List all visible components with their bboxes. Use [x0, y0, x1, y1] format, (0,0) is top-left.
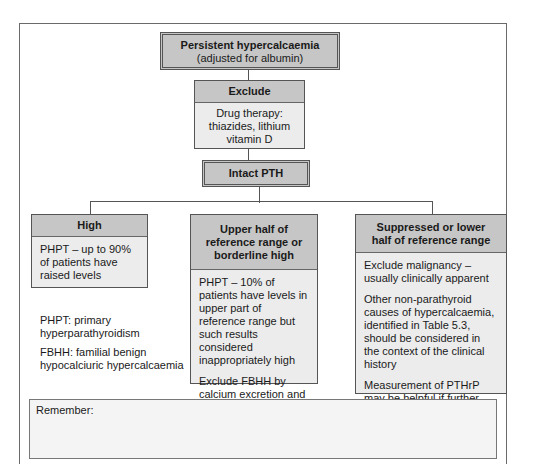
- start-subtitle: (adjusted for albumin): [163, 52, 337, 65]
- connector: [90, 201, 433, 202]
- remember-box: Remember:: [29, 399, 497, 459]
- branch-title: Upper half of reference range or borderl…: [191, 215, 317, 270]
- legend-item: PHPT: primary hyperparathyroidism: [40, 314, 185, 340]
- branch-text: PHPT – up to 90% of patients have raised…: [40, 243, 139, 282]
- connector: [90, 201, 91, 214]
- branch-title: High: [32, 215, 147, 237]
- branch-text: Other non-parathyroid causes of hypercal…: [364, 293, 498, 371]
- branch-suppressed: Suppressed or lower half of reference ra…: [355, 214, 507, 394]
- branch-text: Exclude malignancy – usually clinically …: [364, 259, 498, 285]
- branch-text: PHPT – 10% of patients have levels in up…: [199, 276, 309, 367]
- exclude-title: Exclude: [195, 81, 304, 103]
- connector: [248, 149, 249, 160]
- exclude-box: Exclude Drug therapy: thiazides, lithium…: [194, 80, 305, 149]
- pth-box: Intact PTH: [202, 160, 310, 187]
- branch-high: High PHPT – up to 90% of patients have r…: [31, 214, 148, 288]
- branch-title: Suppressed or lower half of reference ra…: [356, 215, 506, 253]
- exclude-line: thiazides, lithium: [195, 120, 304, 133]
- pth-title: Intact PTH: [205, 163, 307, 184]
- connector: [432, 201, 433, 214]
- legend-item: FBHH: familial benign hypocalciuric hype…: [40, 346, 185, 372]
- start-box: Persistent hypercalcaemia (adjusted for …: [160, 32, 340, 70]
- exclude-line: Drug therapy:: [195, 107, 304, 120]
- exclude-line: vitamin D: [195, 133, 304, 146]
- branch-upper: Upper half of reference range or borderl…: [190, 214, 318, 384]
- legend: PHPT: primary hyperparathyroidism FBHH: …: [40, 314, 185, 378]
- connector: [248, 70, 249, 80]
- start-title: Persistent hypercalcaemia: [163, 39, 337, 52]
- remember-label: Remember:: [36, 404, 93, 416]
